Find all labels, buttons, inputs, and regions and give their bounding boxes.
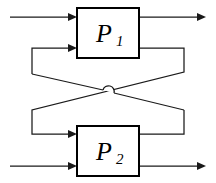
external-input-p1-arrowhead [68, 13, 77, 21]
block-p1[interactable]: P 1 [77, 8, 139, 58]
feedback-p2-to-p1-right-segment [139, 110, 184, 134]
external-output-p2-wire [139, 162, 206, 170]
block-diagram-canvas: P 1 P 2 [0, 0, 216, 183]
external-input-p2-arrowhead [68, 162, 77, 170]
external-output-p1-wire [139, 13, 206, 21]
block-p1-label-subscript: 1 [116, 33, 124, 49]
block-p2-label-subscript: 2 [116, 151, 124, 167]
block-p2[interactable]: P 2 [77, 126, 139, 176]
feedback-p2-to-p1-arrowhead [68, 44, 77, 52]
feedback-p2-to-p1-diagonal-left [32, 74, 103, 90]
diagram-svg: P 1 P 2 [0, 0, 216, 183]
external-input-p2-wire [10, 162, 77, 170]
external-output-p2-arrowhead [197, 162, 206, 170]
external-input-p1-wire [10, 13, 77, 21]
external-output-p1-arrowhead [197, 13, 206, 21]
feedback-p2-to-p1-left-segment [32, 48, 75, 74]
block-p2-label: P [95, 137, 112, 166]
feedback-p2-to-p1-diagonal-right [114, 93, 184, 110]
block-p1-label: P [95, 19, 112, 48]
feedback-path-p1-to-p2 [32, 48, 184, 138]
feedback-p1-to-p2-arrowhead [68, 130, 77, 138]
